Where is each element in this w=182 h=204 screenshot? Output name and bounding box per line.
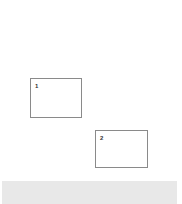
- numbered-box-1[interactable]: 1: [30, 78, 82, 118]
- box-label: 2: [100, 135, 103, 141]
- numbered-box-2[interactable]: 2: [95, 130, 148, 168]
- box-label: 1: [35, 83, 38, 89]
- bottom-bar: [2, 181, 177, 204]
